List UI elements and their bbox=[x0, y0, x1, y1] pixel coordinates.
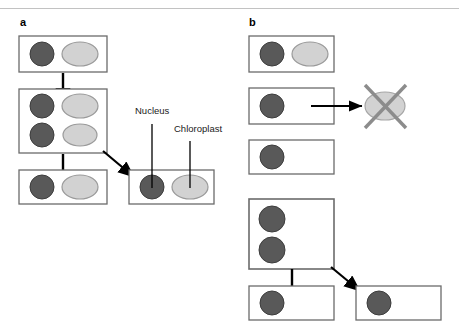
nucleus-circle-icon bbox=[260, 94, 284, 118]
panel-a bbox=[19, 36, 214, 204]
nucleus-circle-icon bbox=[30, 94, 54, 118]
cell-b1 bbox=[249, 36, 334, 72]
chloroplast-ellipse-icon bbox=[63, 124, 97, 146]
nucleus-circle-icon bbox=[259, 206, 285, 232]
discarded-chloroplast bbox=[365, 85, 406, 128]
panel-b bbox=[249, 36, 441, 320]
label-chloroplast: Chloroplast bbox=[174, 124, 222, 134]
nucleus-circle-icon bbox=[30, 42, 54, 66]
cell-b4 bbox=[249, 199, 334, 269]
figure-root: a b Nucleus Chloroplast bbox=[0, 0, 459, 330]
cell-a3 bbox=[19, 170, 107, 204]
nucleus-circle-icon bbox=[260, 291, 284, 315]
panel-letter-b: b bbox=[249, 17, 256, 28]
panel-letter-a: a bbox=[20, 17, 26, 28]
cell-a-labeled bbox=[129, 170, 214, 204]
cell-b6 bbox=[356, 286, 441, 320]
cell-a1 bbox=[19, 36, 107, 72]
cell-a2 bbox=[19, 89, 107, 153]
cell-b3 bbox=[249, 140, 334, 174]
cell-b5 bbox=[249, 286, 334, 320]
chloroplast-ellipse-icon bbox=[292, 42, 328, 66]
nucleus-circle-icon bbox=[30, 175, 54, 199]
nucleus-circle-icon bbox=[367, 291, 391, 315]
chloroplast-ellipse-icon bbox=[62, 175, 98, 199]
diagram-canvas bbox=[0, 0, 459, 330]
chloroplast-ellipse-icon bbox=[62, 42, 98, 66]
chloroplast-ellipse-icon bbox=[62, 94, 98, 118]
nucleus-circle-icon bbox=[260, 145, 284, 169]
label-nucleus: Nucleus bbox=[135, 106, 169, 116]
nucleus-circle-icon bbox=[260, 42, 284, 66]
nucleus-circle-icon bbox=[259, 237, 285, 263]
nucleus-circle-icon bbox=[30, 123, 54, 147]
